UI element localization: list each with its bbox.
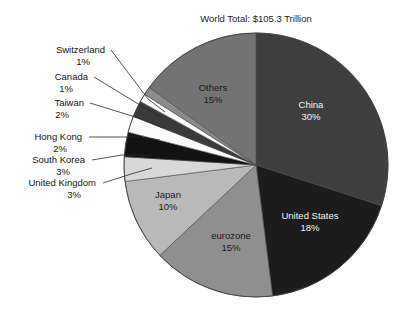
slice-label-united-kingdom: United Kingdom xyxy=(28,177,96,188)
slice-label-canada: Canada xyxy=(55,71,89,82)
slice-percent-taiwan: 2% xyxy=(55,109,69,120)
slice-percent-japan: 10% xyxy=(158,201,178,212)
slice-percent-others: 15% xyxy=(203,94,223,105)
slice-percent-china: 30% xyxy=(301,111,321,122)
slice-label-japan: Japan xyxy=(155,189,181,200)
slice-label-others: Others xyxy=(199,82,228,93)
pie-wedges-group xyxy=(124,33,388,297)
slice-label-taiwan: Taiwan xyxy=(54,97,84,108)
slice-label-united-states: United States xyxy=(281,210,338,221)
slice-label-hong-kong: Hong Kong xyxy=(34,131,82,142)
slice-percent-eurozone: 15% xyxy=(221,242,241,253)
slice-percent-hong-kong: 2% xyxy=(53,143,67,154)
slice-label-south-korea: South Korea xyxy=(32,154,86,165)
slice-label-china: China xyxy=(299,99,325,110)
slice-label-switzerland: Switzerland xyxy=(56,44,105,55)
slice-percent-united-states: 18% xyxy=(300,222,320,233)
slice-percent-switzerland: 1% xyxy=(76,56,90,67)
slice-percent-canada: 1% xyxy=(59,83,73,94)
chart-title: World Total: $105.3 Trillion xyxy=(200,13,312,24)
pie-chart-canvas: World Total: $105.3 Trillion China30%Uni… xyxy=(0,0,407,315)
slice-percent-south-korea: 3% xyxy=(56,166,70,177)
slice-percent-united-kingdom: 3% xyxy=(67,189,81,200)
pie-chart-figure: World Total: $105.3 Trillion China30%Uni… xyxy=(0,0,407,315)
slice-label-eurozone: eurozone xyxy=(211,230,251,241)
